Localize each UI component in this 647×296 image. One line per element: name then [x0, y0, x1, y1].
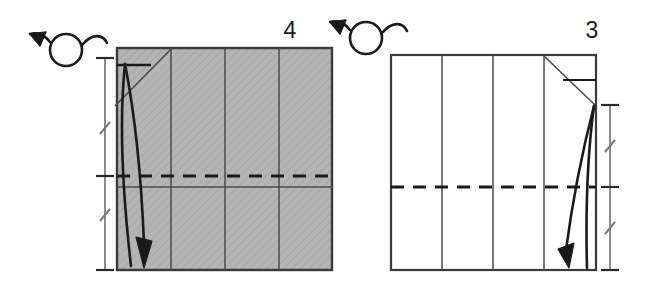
diagram-svg: 4 — [0, 0, 647, 296]
step-number-label: 3 — [586, 17, 599, 43]
dimension-line — [96, 58, 114, 270]
turn-over-icon — [30, 32, 107, 66]
step-number-label: 4 — [284, 17, 297, 43]
origami-diagram-canvas: 4 — [0, 0, 647, 296]
dimension-line — [601, 105, 619, 270]
panel-step-3: 3 — [330, 17, 619, 270]
panel-step-4: 4 — [30, 17, 332, 270]
turn-over-icon — [330, 20, 407, 54]
